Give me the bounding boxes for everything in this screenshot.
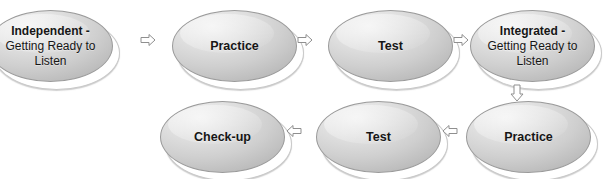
node-test-bottom[interactable]: Test — [316, 101, 441, 173]
node-label-line1: Integrated - — [477, 24, 588, 39]
arrow-test-to-integrated — [453, 32, 469, 48]
arrow-practice-to-test-bottom — [442, 123, 458, 139]
node-label-line2: Getting Ready to Listen — [477, 39, 588, 69]
node-body: Integrated - Getting Ready to Listen — [470, 10, 595, 82]
arrow-independent-to-practice — [140, 32, 156, 48]
node-label: Practice — [204, 39, 265, 54]
node-label: Test — [372, 39, 409, 54]
node-body: Check-up — [160, 101, 285, 173]
node-label: Integrated - Getting Ready to Listen — [471, 24, 594, 69]
node-label: Practice — [498, 130, 559, 145]
node-label: Independent - Getting Ready to Listen — [0, 24, 112, 69]
node-label-line1: Independent - — [0, 24, 106, 39]
node-check-up[interactable]: Check-up — [160, 101, 285, 173]
node-integrated-getting-ready-to-listen[interactable]: Integrated - Getting Ready to Listen — [470, 10, 595, 82]
node-body: Test — [316, 101, 441, 173]
node-practice-top[interactable]: Practice — [172, 10, 297, 82]
node-practice-bottom[interactable]: Practice — [466, 101, 591, 173]
node-label: Test — [360, 130, 397, 145]
node-test-top[interactable]: Test — [328, 10, 453, 82]
arrow-test-to-checkup-bottom — [286, 123, 302, 139]
node-body: Test — [328, 10, 453, 82]
arrow-practice-to-test — [297, 32, 313, 48]
node-label-line2: Getting Ready to Listen — [0, 39, 106, 69]
node-body: Practice — [172, 10, 297, 82]
flowchart-diagram: Independent - Getting Ready to Listen Pr… — [0, 0, 604, 179]
arrow-integrated-to-practice-down — [509, 84, 525, 100]
node-label: Check-up — [188, 130, 257, 145]
node-body: Practice — [466, 101, 591, 173]
node-independent-getting-ready-to-listen[interactable]: Independent - Getting Ready to Listen — [0, 10, 113, 82]
